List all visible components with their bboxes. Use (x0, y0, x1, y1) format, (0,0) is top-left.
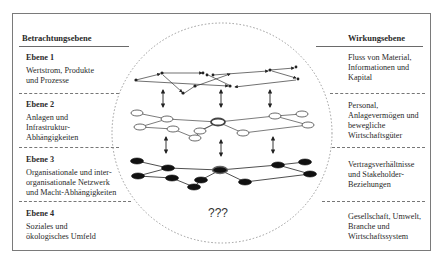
interlayer-arrows-1-2 (163, 90, 270, 107)
organisation-nodes (131, 158, 317, 190)
asset-nodes (131, 110, 314, 141)
process-network-layer (136, 68, 296, 94)
network-illustration (0, 0, 444, 267)
unknown-layer-label: ??? (208, 206, 228, 220)
interlayer-arrows-2-3 (166, 137, 273, 156)
